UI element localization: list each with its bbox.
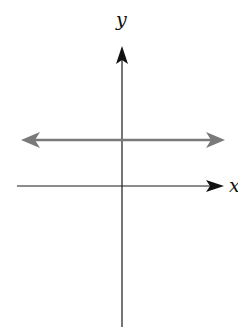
y-axis-label: y bbox=[115, 8, 127, 30]
x-axis bbox=[17, 180, 224, 192]
coordinate-plane: y x bbox=[0, 0, 238, 329]
x-axis-label: x bbox=[229, 174, 238, 196]
horizontal-line bbox=[21, 132, 225, 148]
